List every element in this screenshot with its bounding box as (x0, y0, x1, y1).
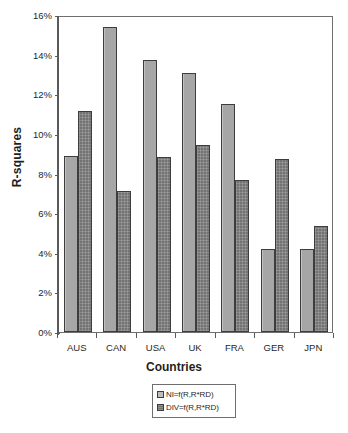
x-tick-label-uk: UK (175, 342, 214, 353)
y-tick-label: 0% (14, 327, 52, 338)
legend-item-1: DIV=f(R,R*RD) (157, 401, 231, 414)
x-tick-mark (254, 333, 255, 338)
bar-fra-series-0 (221, 104, 235, 332)
x-tick-label-can: CAN (96, 342, 135, 353)
x-tick-mark (333, 333, 334, 338)
bar-ger-series-1 (275, 159, 289, 332)
x-tick-label-jpn: JPN (294, 342, 333, 353)
x-tick-label-fra: FRA (215, 342, 254, 353)
x-axis-title: Countries (0, 360, 348, 374)
x-tick-label-aus: AUS (57, 342, 96, 353)
bar-jpn-series-0 (300, 249, 314, 332)
bar-can-series-0 (103, 27, 117, 332)
y-tick-label: 16% (14, 10, 52, 21)
bar-ger-series-0 (261, 249, 275, 332)
bar-aus-series-0 (64, 156, 78, 332)
bar-usa-series-1 (157, 157, 171, 332)
bar-aus-series-1 (78, 111, 92, 332)
bar-uk-series-1 (196, 145, 210, 332)
legend-label-1: DIV=f(R,R*RD) (166, 403, 219, 412)
bar-fra-series-1 (235, 180, 249, 332)
x-tick-label-ger: GER (254, 342, 293, 353)
plot-area (57, 16, 333, 333)
y-tick-label: 6% (14, 208, 52, 219)
x-tick-mark (57, 333, 58, 338)
y-tick-label: 2% (14, 287, 52, 298)
y-tick-label: 8% (14, 169, 52, 180)
chart-legend: NI=f(R,R*RD)DIV=f(R,R*RD) (152, 384, 236, 418)
x-tick-mark (175, 333, 176, 338)
legend-swatch-icon-0 (157, 391, 164, 398)
y-tick-label: 12% (14, 89, 52, 100)
x-tick-mark (215, 333, 216, 338)
legend-item-0: NI=f(R,R*RD) (157, 388, 231, 401)
x-tick-mark (136, 333, 137, 338)
x-tick-mark (294, 333, 295, 338)
y-tick-label: 10% (14, 129, 52, 140)
y-axis-title: R-squares (10, 112, 24, 202)
chart-figure: R-squares 0%2%4%6%8%10%12%14%16% AUSCANU… (0, 0, 348, 433)
y-tick-label: 14% (14, 50, 52, 61)
bar-uk-series-0 (182, 73, 196, 332)
legend-swatch-icon-1 (157, 404, 164, 411)
y-tick-label: 4% (14, 248, 52, 259)
x-tick-mark (96, 333, 97, 338)
x-tick-label-usa: USA (136, 342, 175, 353)
bar-jpn-series-1 (314, 226, 328, 332)
bar-can-series-1 (117, 191, 131, 332)
legend-label-0: NI=f(R,R*RD) (166, 390, 213, 399)
bar-usa-series-0 (143, 60, 157, 332)
